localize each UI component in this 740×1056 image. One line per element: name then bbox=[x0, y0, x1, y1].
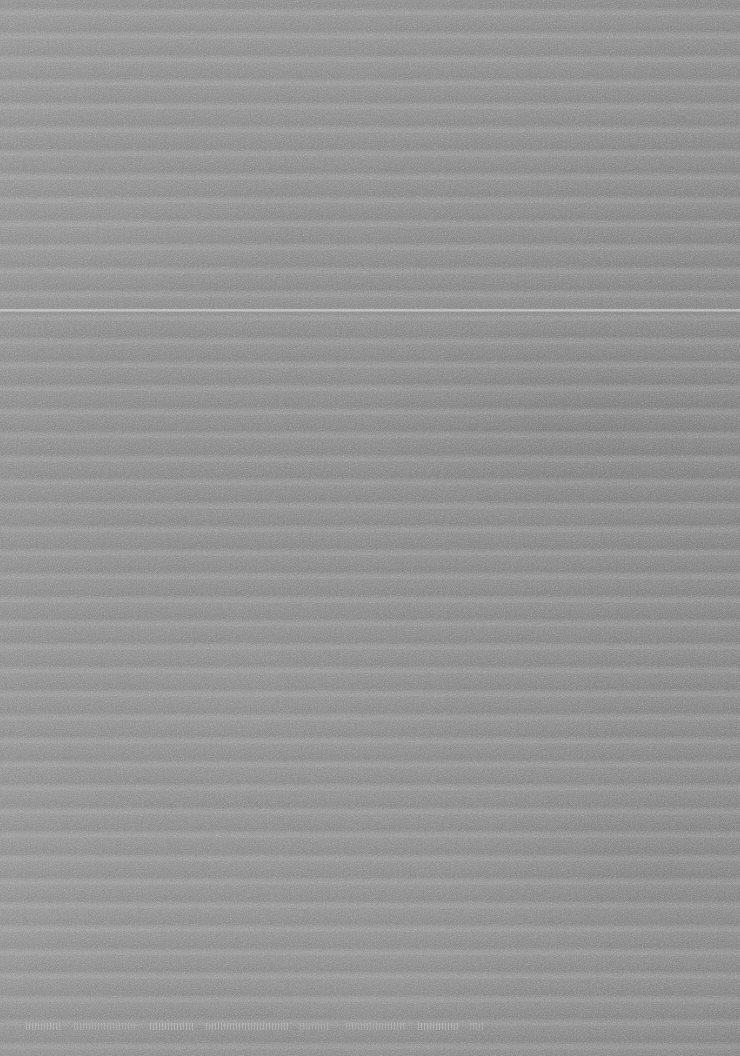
text-remnant-segment bbox=[418, 1023, 458, 1030]
text-remnant-segment bbox=[300, 1023, 330, 1030]
horizontal-stripe-shadow-pattern bbox=[0, 0, 740, 1056]
illegible-text-remnants bbox=[0, 1022, 740, 1032]
text-remnant-segment bbox=[74, 1023, 136, 1030]
text-remnant-segment bbox=[346, 1023, 404, 1030]
bright-scanline bbox=[0, 309, 740, 312]
scan-surface-canvas bbox=[0, 0, 740, 1056]
text-remnant-segment bbox=[470, 1023, 484, 1030]
text-remnant-segment bbox=[26, 1023, 62, 1030]
text-remnant-segment bbox=[150, 1023, 194, 1030]
text-remnant-segment bbox=[206, 1023, 290, 1030]
